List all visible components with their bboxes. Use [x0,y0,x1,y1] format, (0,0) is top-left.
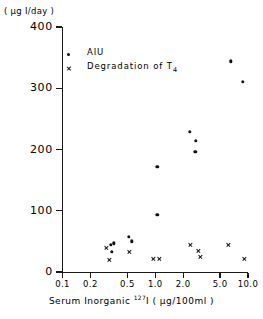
y-tick-200 [56,149,62,150]
legend-label-degradation: Degradation of T4 [87,61,178,74]
data-point [151,256,156,261]
x-tick-0.1 [62,273,63,278]
data-point [198,255,203,260]
x-tick-label-0.5: 0.5 [120,279,135,289]
x-axis-title: Serum Inorganic 127I ( µg/100ml ) [0,294,263,306]
y-axis-unit-label: ( µg I/day ) [4,6,54,16]
x-tick-2.0 [183,273,184,278]
data-point [110,250,113,253]
x-tick-10.0 [247,273,248,278]
y-tick-label-0: 0 [7,265,53,278]
data-point [188,130,191,133]
legend-label-aiu: AIU [87,47,104,57]
x-tick-5.0 [219,273,220,278]
y-tick-label-100: 100 [7,204,53,217]
data-point [242,257,247,262]
y-tick-100 [56,210,62,211]
data-point [194,139,197,142]
data-point [156,257,161,262]
legend-marker-filled-circle-icon [66,51,75,60]
data-point [127,235,130,238]
y-tick-300 [56,88,62,89]
legend-marker-cross-icon [66,65,75,74]
data-point [188,242,193,247]
x-tick-label-0.1: 0.1 [55,279,70,289]
data-point [104,246,109,251]
data-point [156,165,159,168]
y-tick-400 [56,26,62,27]
x-tick-label-2.0: 2.0 [176,279,191,289]
y-axis-line [62,27,63,273]
scatter-chart-figure: ( µg I/day ) 0100200300400 0.10.20.51.02… [0,0,263,319]
x-tick-0.5 [127,273,128,278]
y-tick-label-300: 300 [7,81,53,94]
x-tick-label-1.0: 1.0 [148,279,163,289]
data-point [130,240,133,243]
y-tick-label-200: 200 [7,143,53,156]
data-point [196,248,201,253]
data-point [229,60,232,63]
x-tick-0.2 [90,273,91,278]
x-tick-label-10.0: 10.0 [238,279,259,289]
x-tick-label-0.2: 0.2 [83,279,98,289]
data-point [225,242,230,247]
data-point [112,242,115,245]
data-point [194,150,197,153]
x-tick-label-5.0: 5.0 [213,279,228,289]
data-point [107,257,112,262]
data-point [156,213,159,216]
y-tick-label-400: 400 [7,20,53,33]
x-tick-1.0 [155,273,156,278]
data-point [126,249,131,254]
data-point [241,80,244,83]
